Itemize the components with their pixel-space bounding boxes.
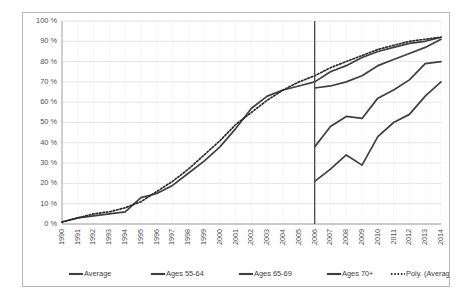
y-axis-tick-label: 60 % [40, 97, 57, 106]
x-axis-tick-label: 1999 [199, 229, 208, 245]
x-axis-tick-label: 2001 [231, 229, 240, 245]
x-axis-tick-label: 2007 [325, 229, 334, 245]
y-axis-tick-labels: 0 %10 %20 %30 %40 %50 %60 %70 %80 %90 %1… [36, 16, 57, 228]
legend-label-ages-70: Ages 70+ [342, 269, 373, 278]
x-axis-tick-label: 2000 [215, 229, 224, 245]
x-axis-tick-label: 1991 [73, 229, 82, 245]
x-axis-tick-label: 1994 [120, 229, 129, 245]
x-axis-tick-label: 2010 [373, 229, 382, 245]
y-axis-tick-label: 70 % [40, 77, 57, 86]
legend-label-ages-65-69: Ages 65-69 [254, 269, 292, 278]
x-axis-tick-label: 2006 [310, 229, 319, 245]
y-axis-tick-label: 100 % [36, 16, 57, 25]
x-axis-tick-label: 1998 [183, 229, 192, 245]
x-axis-tick-label: 2003 [262, 229, 271, 245]
x-axis-tick-label: 2014 [436, 229, 445, 245]
x-axis-tick-label: 1997 [167, 229, 176, 245]
legend-label-poly-average: Poly. (Average) [406, 269, 449, 278]
line-chart: 0 %10 %20 %30 %40 %50 %60 %70 %80 %90 %1… [23, 13, 449, 286]
x-axis-tick-label: 2002 [246, 229, 255, 245]
x-axis-tick-label: 2013 [420, 229, 429, 245]
y-axis-tick-label: 40 % [40, 138, 57, 147]
x-axis-tick-label: 1990 [57, 229, 66, 245]
y-axis-tick-label: 80 % [40, 57, 57, 66]
legend-label-average: Average [84, 269, 111, 278]
x-axis-tick-label: 2009 [357, 229, 366, 245]
y-axis-tick-label: 0 % [44, 219, 57, 228]
y-axis-tick-label: 50 % [40, 117, 57, 126]
x-axis-tick-label: 1993 [104, 229, 113, 245]
x-axis-tick-label: 2008 [341, 229, 350, 245]
chart-container: 0 %10 %20 %30 %40 %50 %60 %70 %80 %90 %1… [22, 12, 450, 287]
x-axis-tick-label: 2005 [294, 229, 303, 245]
x-axis-tick-labels: 1990199119921993199419951996199719981999… [57, 229, 445, 245]
y-axis-tick-label: 10 % [40, 199, 57, 208]
x-axis-tick-label: 2011 [389, 229, 398, 244]
legend-label-ages-55-64: Ages 55-64 [166, 269, 204, 278]
y-axis-tick-label: 30 % [40, 158, 57, 167]
x-axis-tick-label: 2004 [278, 229, 287, 245]
chart-legend: AverageAges 55-64Ages 65-69Ages 70+Poly.… [69, 269, 449, 278]
x-axis-tick-label: 1996 [152, 229, 161, 245]
x-axis-tick-label: 1995 [136, 229, 145, 245]
gridlines-group [62, 21, 441, 224]
y-axis-tick-label: 20 % [40, 178, 57, 187]
y-axis-tick-label: 90 % [40, 36, 57, 45]
x-axis-tick-label: 2012 [404, 229, 413, 245]
x-axis-tick-label: 1992 [88, 229, 97, 245]
